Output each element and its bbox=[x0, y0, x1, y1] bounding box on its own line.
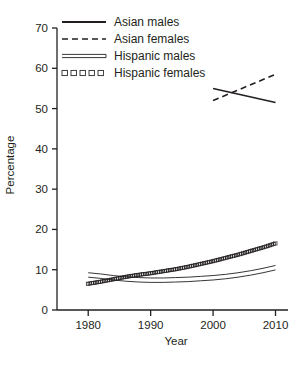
y-axis-tick-label: 60 bbox=[35, 62, 48, 74]
series-asian-females bbox=[213, 74, 275, 100]
y-axis-tick-label: 50 bbox=[35, 103, 48, 115]
x-axis-tick-label: 2000 bbox=[200, 319, 226, 331]
chart-canvas: 010203040506070 1980199020002010 Asian m… bbox=[0, 0, 297, 365]
y-axis-title: Percentage bbox=[4, 136, 16, 195]
legend-swatch-open-square bbox=[98, 70, 103, 75]
series-hispanic-females bbox=[86, 242, 277, 285]
series-asian-males bbox=[213, 88, 275, 102]
legend-item-asian-males: Asian males bbox=[62, 15, 179, 29]
line-chart: 010203040506070 1980199020002010 Asian m… bbox=[0, 0, 297, 365]
y-axis-tick-label: 10 bbox=[35, 264, 48, 276]
x-axis-tick-label: 1980 bbox=[75, 319, 101, 331]
series-line-dashed bbox=[213, 74, 275, 100]
data-series-group bbox=[86, 74, 277, 285]
legend-swatch-open-square bbox=[71, 70, 76, 75]
y-axis: 010203040506070 bbox=[35, 22, 57, 316]
legend-label: Hispanic females bbox=[114, 66, 205, 80]
x-axis-title: Year bbox=[164, 335, 187, 347]
y-axis-tick-label: 30 bbox=[35, 183, 48, 195]
y-axis-tick-label: 0 bbox=[42, 304, 48, 316]
legend-item-hispanic-females: Hispanic females bbox=[62, 66, 205, 80]
chart-legend: Asian malesAsian femalesHispanic malesHi… bbox=[62, 15, 205, 80]
y-axis-tick-label: 40 bbox=[35, 143, 48, 155]
x-axis-tick-label: 2010 bbox=[263, 319, 289, 331]
legend-label: Asian males bbox=[114, 15, 179, 29]
legend-item-asian-females: Asian females bbox=[62, 32, 189, 46]
legend-swatch-open-square bbox=[62, 70, 67, 75]
legend-label: Hispanic males bbox=[114, 49, 195, 63]
x-axis: 1980199020002010 bbox=[57, 310, 288, 331]
legend-swatch-open-square bbox=[89, 70, 94, 75]
series-line-solid bbox=[213, 88, 275, 102]
legend-label: Asian females bbox=[114, 32, 189, 46]
y-axis-tick-label: 20 bbox=[35, 223, 48, 235]
legend-swatch-open-square bbox=[80, 70, 85, 75]
legend-item-hispanic-males: Hispanic males bbox=[62, 49, 195, 63]
x-axis-tick-label: 1990 bbox=[138, 319, 164, 331]
y-axis-tick-label: 70 bbox=[35, 22, 48, 34]
